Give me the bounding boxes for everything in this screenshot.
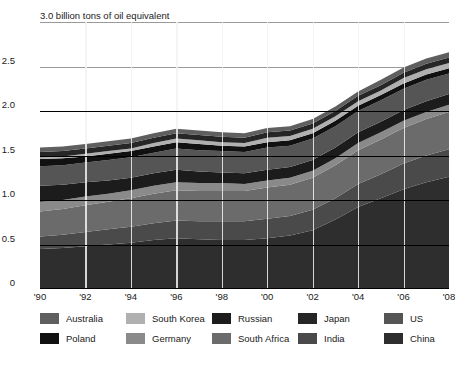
legend-label: South Africa (238, 333, 289, 344)
y-axis-tick-label: 2.0 (2, 100, 15, 110)
legend-item-south-africa: South Africa (212, 333, 298, 344)
legend-label: Japan (324, 313, 350, 324)
x-axis-tick-label: '00 (261, 292, 273, 302)
x-axis-line (40, 288, 449, 289)
stacked-area-chart: 3.0 billion tons of oil equivalent 00.51… (0, 0, 466, 367)
chart-title: 3.0 billion tons of oil equivalent (40, 11, 169, 21)
y-axis-tick-label: 1.5 (2, 145, 15, 155)
x-axis-tick-label: '92 (79, 292, 91, 302)
legend-swatch-icon (212, 313, 231, 324)
legend-item-south-korea: South Korea (126, 313, 212, 324)
gridline-over (40, 111, 449, 112)
gridline-over (40, 245, 449, 246)
legend-label: Poland (66, 333, 96, 344)
legend-item-australia: Australia (40, 313, 126, 324)
legend-label: US (410, 313, 423, 324)
x-axis-tick-label: '02 (306, 292, 318, 302)
legend-swatch-icon (384, 333, 403, 344)
legend-swatch-icon (40, 333, 59, 344)
y-axis-tick-label: 1.0 (2, 189, 15, 199)
legend-label: Russian (238, 313, 272, 324)
legend-row: PolandGermanySouth AfricaIndiaChina (40, 330, 449, 346)
legend-label: Australia (66, 313, 103, 324)
y-axis-tick-label: 2.5 (2, 56, 15, 66)
plot-area (40, 22, 449, 289)
y-axis-tick-label: 0 (10, 278, 15, 288)
legend-swatch-icon (40, 313, 59, 324)
x-axis-tick-label: '08 (443, 292, 455, 302)
legend-swatch-icon (126, 313, 145, 324)
x-axis-tick-label: '06 (397, 292, 409, 302)
legend-label: India (324, 333, 345, 344)
legend-swatch-icon (298, 313, 317, 324)
legend-swatch-icon (384, 313, 403, 324)
x-axis-tick-label: '98 (216, 292, 228, 302)
x-axis-tick-label: '90 (34, 292, 46, 302)
legend-row: AustraliaSouth KoreaRussianJapanUS (40, 310, 449, 326)
gridline-over (40, 156, 449, 157)
legend-item-germany: Germany (126, 333, 212, 344)
x-axis-tick-label: '94 (125, 292, 137, 302)
legend-label: Germany (152, 333, 191, 344)
legend-swatch-icon (212, 333, 231, 344)
legend-label: South Korea (152, 313, 205, 324)
legend-label: China (410, 333, 435, 344)
legend-item-russian: Russian (212, 313, 298, 324)
legend-item-japan: Japan (298, 313, 384, 324)
chart-legend: AustraliaSouth KoreaRussianJapanUS Polan… (40, 310, 449, 350)
y-axis-tick-label: 0.5 (2, 234, 15, 244)
x-axis-tick-label: '96 (170, 292, 182, 302)
x-axis-tick-label: '04 (352, 292, 364, 302)
legend-swatch-icon (298, 333, 317, 344)
legend-item-poland: Poland (40, 333, 126, 344)
legend-item-india: India (298, 333, 384, 344)
gridline-over (40, 200, 449, 201)
legend-item-china: China (384, 333, 466, 344)
legend-swatch-icon (126, 333, 145, 344)
legend-item-us: US (384, 313, 466, 324)
